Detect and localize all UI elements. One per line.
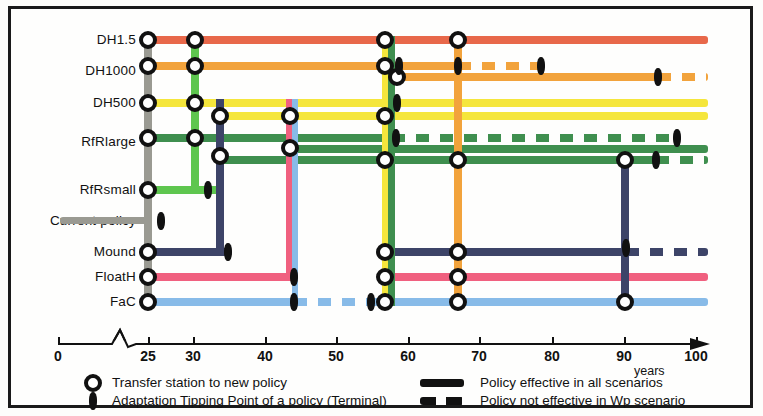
- x-axis-tick: [58, 337, 60, 345]
- segment-rfrl-b: [288, 145, 708, 153]
- segment-dh1000-a-dash: [458, 62, 542, 70]
- tipping-point[interactable]: [454, 57, 462, 75]
- transfer-station[interactable]: [281, 139, 299, 157]
- transfer-station[interactable]: [281, 107, 299, 125]
- transfer-station[interactable]: [139, 94, 157, 112]
- chart-frame: DH1.5DH1000DH500RfRlargeRfRsmallCurrent …: [8, 6, 753, 408]
- transfer-station[interactable]: [376, 107, 394, 125]
- segment-dh500-a: [146, 99, 708, 107]
- transfer-station[interactable]: [139, 293, 157, 311]
- legend-dashed-line-icon: [420, 397, 464, 405]
- row-label-dh1000: DH1000: [11, 63, 136, 78]
- tipping-point[interactable]: [393, 94, 401, 112]
- tipping-point[interactable]: [290, 268, 298, 286]
- transfer-station[interactable]: [139, 268, 157, 286]
- transfer-station[interactable]: [139, 31, 157, 49]
- legend-item-label: Transfer station to new policy: [112, 375, 287, 390]
- x-axis-tick-label: 100: [680, 348, 712, 364]
- tipping-point[interactable]: [157, 212, 165, 230]
- tipping-point[interactable]: [290, 293, 298, 311]
- tipping-point[interactable]: [622, 239, 630, 257]
- segment-rfrl-a: [146, 134, 394, 142]
- transfer-station[interactable]: [376, 151, 394, 169]
- tipping-point[interactable]: [652, 151, 660, 169]
- segment-fac-b: [386, 298, 708, 306]
- transfer-station[interactable]: [376, 31, 394, 49]
- segment-rfrl-c: [218, 156, 656, 164]
- segment-dh1000-b: [386, 73, 661, 81]
- transfer-station[interactable]: [376, 268, 394, 286]
- row-label-mound: Mound: [11, 244, 136, 259]
- x-axis-tick: [552, 337, 554, 345]
- chart-root: DH1.5DH1000DH500RfRlargeRfRsmallCurrent …: [0, 0, 763, 416]
- x-axis-tick: [148, 337, 150, 345]
- x-axis-tick: [479, 337, 481, 345]
- x-axis-tick-label: 60: [392, 348, 424, 364]
- x-axis-tick: [336, 337, 338, 345]
- transfer-station[interactable]: [186, 31, 204, 49]
- transfer-station[interactable]: [449, 151, 467, 169]
- transfer-station[interactable]: [376, 243, 394, 261]
- x-axis-tick: [408, 337, 410, 345]
- legend-tipping-icon: [89, 392, 97, 410]
- row-label-floath: FloatH: [11, 269, 136, 284]
- segment-floath-a: [146, 273, 294, 281]
- transfer-station[interactable]: [449, 31, 467, 49]
- x-axis-tick-label: 50: [320, 348, 352, 364]
- tipping-point[interactable]: [392, 129, 400, 147]
- x-axis-tick: [624, 337, 626, 345]
- row-label-fac: FaC: [11, 294, 136, 309]
- x-axis-tick-label: 90: [608, 348, 640, 364]
- pathways-canvas: DH1.5DH1000DH500RfRlargeRfRsmallCurrent …: [11, 9, 750, 405]
- segment-rfrl-a-dash: [392, 134, 680, 142]
- x-axis-tick: [696, 337, 698, 345]
- transfer-station[interactable]: [139, 181, 157, 199]
- x-axis-tick-label: 30: [177, 348, 209, 364]
- transfer-station[interactable]: [449, 243, 467, 261]
- transfer-station[interactable]: [186, 94, 204, 112]
- tipping-point[interactable]: [654, 68, 662, 86]
- connector-v-navy-89: [621, 156, 629, 306]
- transfer-station[interactable]: [186, 129, 204, 147]
- transfer-station[interactable]: [211, 147, 229, 165]
- transfer-station[interactable]: [211, 107, 229, 125]
- transfer-station[interactable]: [376, 293, 394, 311]
- tipping-point[interactable]: [673, 129, 681, 147]
- legend-solid-line-icon: [420, 379, 464, 387]
- connector-v-gray-25: [144, 36, 152, 306]
- tipping-point[interactable]: [537, 57, 545, 75]
- row-label-dh500: DH500: [11, 95, 136, 110]
- x-axis-tick-label: 80: [536, 348, 568, 364]
- transfer-station[interactable]: [616, 293, 634, 311]
- segment-floath-b: [386, 273, 708, 281]
- axis-break-icon: [96, 327, 148, 349]
- segment-mound-b-dash: [626, 248, 708, 256]
- tipping-point[interactable]: [204, 181, 212, 199]
- transfer-station[interactable]: [449, 293, 467, 311]
- x-axis-line: [58, 343, 698, 345]
- transfer-station[interactable]: [616, 151, 634, 169]
- x-axis-tick-label: 40: [249, 348, 281, 364]
- x-axis-tick-label: 0: [42, 348, 74, 364]
- transfer-station[interactable]: [139, 243, 157, 261]
- segment-dh15-main: [146, 36, 708, 44]
- segment-dh1000-b-dash: [658, 73, 708, 81]
- tipping-point[interactable]: [224, 243, 232, 261]
- x-axis-tick: [193, 337, 195, 345]
- transfer-station[interactable]: [139, 57, 157, 75]
- legend-item-label: Adaptation Tipping Point of a policy (Te…: [112, 393, 387, 408]
- legend-item-label: Policy not effective in Wp scenario: [480, 393, 685, 408]
- tipping-point[interactable]: [367, 293, 375, 311]
- row-label-dh1-5: DH1.5: [11, 32, 136, 47]
- transfer-station[interactable]: [186, 57, 204, 75]
- legend-item-label: Policy effective in all scenarios: [480, 375, 663, 390]
- transfer-station[interactable]: [139, 129, 157, 147]
- row-label-rfrlarge: RfRlarge: [11, 134, 136, 149]
- segment-fac-a: [146, 298, 294, 306]
- segment-rfrl-c-dash: [656, 156, 708, 164]
- row-label-rfrsmall: RfRsmall: [11, 182, 136, 197]
- connector-v-orange-66: [454, 36, 462, 306]
- tipping-point[interactable]: [395, 57, 403, 75]
- segment-mound-b: [386, 248, 626, 256]
- transfer-station[interactable]: [449, 268, 467, 286]
